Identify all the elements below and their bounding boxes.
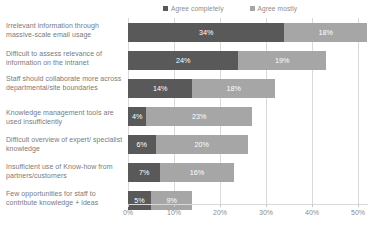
- bar-segment-agree-completely: 14%: [128, 79, 192, 98]
- category-label: Irrelevant information through massive-s…: [6, 21, 124, 39]
- x-tick-label: 20%: [213, 209, 227, 216]
- x-tick-label: 0%: [123, 209, 133, 216]
- bar-segment-agree-completely: 7%: [128, 163, 160, 182]
- category-axis-labels: Irrelevant information through massive-s…: [6, 18, 124, 204]
- chart-legend: Agree completely Agree mostly: [163, 2, 363, 15]
- bar-segment-agree-mostly: 18%: [284, 23, 367, 42]
- x-axis-line: [128, 204, 368, 205]
- category-label: Few opportunities for staff to contribut…: [6, 189, 124, 207]
- x-tick-label: 50%: [351, 209, 365, 216]
- bar-segment-agree-completely: 4%: [128, 107, 146, 126]
- bar-value-label: 24%: [176, 56, 190, 65]
- legend-item-agree-mostly: Agree mostly: [250, 5, 298, 12]
- x-tick-label: 30%: [259, 209, 273, 216]
- category-label: Difficult to assess relevance of informa…: [6, 49, 124, 67]
- x-tick-mark: [128, 204, 129, 207]
- bar-value-label: 18%: [227, 84, 241, 93]
- bar-segment-agree-completely: 5%: [128, 191, 151, 210]
- stacked-bar-chart: Agree completely Agree mostly Irrelevant…: [0, 0, 382, 230]
- bar-value-label: 19%: [275, 56, 289, 65]
- bar-segment-agree-completely: 6%: [128, 135, 156, 154]
- legend-label-agree-mostly: Agree mostly: [258, 5, 298, 12]
- x-tick-label: 40%: [305, 209, 319, 216]
- bar-value-label: 20%: [194, 140, 208, 149]
- table-row: 4% 23%: [128, 107, 252, 126]
- plot-area: 34% 18% 24% 19% 14% 18%: [128, 18, 368, 204]
- bar-value-label: 6%: [137, 140, 147, 149]
- legend-label-agree-completely: Agree completely: [171, 5, 224, 12]
- bar-value-label: 14%: [153, 84, 167, 93]
- bar-segment-agree-mostly: 19%: [238, 51, 325, 70]
- legend-swatch-agree-mostly: [250, 6, 255, 11]
- x-tick-mark: [174, 204, 175, 207]
- bar-segment-agree-mostly: 20%: [156, 135, 248, 154]
- x-tick-mark: [266, 204, 267, 207]
- bar-value-label: 18%: [319, 28, 333, 37]
- bar-segment-agree-mostly: 16%: [160, 163, 234, 182]
- table-row: 5% 9%: [128, 191, 192, 210]
- bar-value-label: 7%: [139, 168, 149, 177]
- x-tick-label: 10%: [167, 209, 181, 216]
- category-label: Staff should collaborate more across dep…: [6, 74, 124, 92]
- bar-segment-agree-completely: 34%: [128, 23, 284, 42]
- bar-value-label: 34%: [199, 28, 213, 37]
- table-row: 7% 16%: [128, 163, 234, 182]
- bar-segment-agree-mostly: 9%: [151, 191, 192, 210]
- bar-segment-agree-mostly: 18%: [192, 79, 275, 98]
- bar-segment-agree-completely: 24%: [128, 51, 238, 70]
- x-tick-mark: [220, 204, 221, 207]
- category-label: Difficult overview of expert/ specialist…: [6, 135, 124, 153]
- category-label: Insufficient use of Know-how from partne…: [6, 162, 124, 180]
- bar-value-label: 4%: [132, 112, 142, 121]
- x-tick-mark: [312, 204, 313, 207]
- table-row: 24% 19%: [128, 51, 326, 70]
- legend-swatch-agree-completely: [163, 6, 168, 11]
- bar-segment-agree-mostly: 23%: [146, 107, 252, 126]
- category-label: Knowledge management tools are used insu…: [6, 108, 124, 126]
- bar-value-label: 16%: [190, 168, 204, 177]
- bar-value-label: 23%: [192, 112, 206, 121]
- legend-item-agree-completely: Agree completely: [163, 5, 224, 12]
- table-row: 14% 18%: [128, 79, 275, 98]
- x-tick-mark: [358, 204, 359, 207]
- table-row: 34% 18%: [128, 23, 367, 42]
- table-row: 6% 20%: [128, 135, 248, 154]
- bar-rows: 34% 18% 24% 19% 14% 18%: [128, 18, 368, 204]
